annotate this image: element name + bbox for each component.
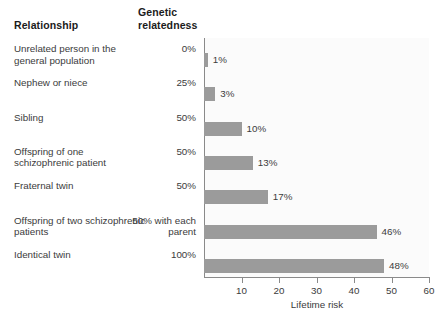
x-axis-tick [429,278,430,283]
column-header-genetic-relatedness: Geneticrelatedness [138,6,208,31]
row-value-genetic-relatedness: 25% [104,77,196,89]
x-axis-tick [354,278,355,283]
x-axis-tick-label: 20 [264,285,294,296]
x-axis-tick-label: 40 [339,285,369,296]
column-header-genetic-relatedness-line1: Genetic [138,6,177,18]
x-axis-tick-label: 30 [302,285,332,296]
x-axis-tick [392,278,393,283]
row-value-genetic-relatedness: 0% [104,43,196,55]
x-axis-title: Lifetime risk [204,299,430,310]
column-header-genetic-relatedness-line2: relatedness [138,19,197,31]
row-value-genetic-relatedness: 50% [104,146,196,158]
bar-value-label: 1% [213,53,227,67]
x-axis-tick [317,278,318,283]
x-axis-tick-label: 10 [227,285,257,296]
bar-value-label: 3% [220,87,234,101]
bar-lifetime-risk [204,190,268,204]
x-axis-tick-label: 60 [414,285,444,296]
column-header-relationship: Relationship [14,19,78,32]
x-axis-tick [279,278,280,283]
bar-lifetime-risk [204,259,384,273]
x-axis-tick [242,278,243,283]
chart-figure: Relationship Geneticrelatedness Unrelate… [0,0,445,320]
bar-value-label: 17% [273,190,293,204]
bar-lifetime-risk [204,122,242,136]
bar-value-label: 46% [382,225,402,239]
row-value-genetic-relatedness: 50% with each parent [104,215,196,238]
bar-value-label: 10% [247,122,267,136]
row-value-genetic-relatedness: 100% [104,249,196,261]
bar-lifetime-risk [204,87,215,101]
x-axis-tick-label: 50 [377,285,407,296]
row-value-genetic-relatedness: 50% [104,180,196,192]
bar-value-label: 48% [389,259,409,273]
bar-value-label: 13% [258,156,278,170]
bar-lifetime-risk [204,225,377,239]
bar-lifetime-risk [204,53,208,67]
row-value-genetic-relatedness: 50% [104,112,196,124]
bar-lifetime-risk [204,156,253,170]
